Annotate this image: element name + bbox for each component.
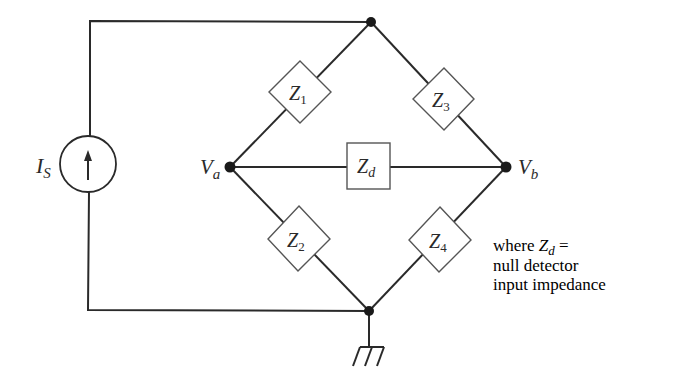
ground-icon [353,347,384,366]
node-bottom [364,306,374,316]
note-line-1: where Zd = [493,236,606,256]
va-label: Va [200,155,220,182]
wire-top-left [90,21,371,136]
current-source [60,136,116,192]
bridge-circuit-diagram: IS Va Vb Z1 Z3 Z2 Z4 Zd [0,0,677,391]
zd-definition-note: where Zd = null detector input impedance [493,236,606,294]
node-top [366,17,376,27]
impedance-z1: Z1 [269,61,331,123]
node-vb [501,162,512,173]
note-line-2: null detector [493,256,606,275]
wire-bottom-left [88,192,369,311]
source-label: IS [35,153,51,181]
vb-label: Vb [518,155,539,182]
note-line-3: input impedance [493,275,606,294]
impedance-z4: Z4 [409,207,471,272]
node-va [225,162,236,173]
impedance-zd: Zd [347,143,390,189]
